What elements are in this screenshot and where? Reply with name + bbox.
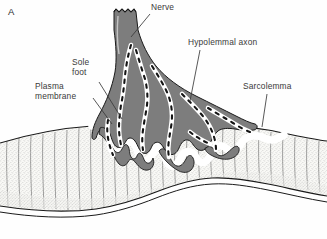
label-sarcolemma-line-1: Sarcolemma [243,82,292,92]
label-hypolemmal-axon-line-1: Hypolemmal axon [188,38,257,48]
label-plasma-membrane-line-2: membrane [35,92,76,102]
label-sole-foot: Solefoot [72,58,89,77]
label-nerve: Nerve [151,3,174,13]
label-hypolemmal-axon: Hypolemmal axon [188,38,257,48]
label-sarcolemma: Sarcolemma [243,82,292,92]
figure-panel-a: A NerveHypolemmal axonSolefootPlasmamemb… [0,0,327,239]
label-sole-foot-line-2: foot [72,68,89,78]
anatomical-diagram [0,0,327,239]
label-nerve-line-1: Nerve [151,3,174,13]
panel-letter: A [8,6,14,17]
label-plasma-membrane: Plasmamembrane [35,82,76,101]
